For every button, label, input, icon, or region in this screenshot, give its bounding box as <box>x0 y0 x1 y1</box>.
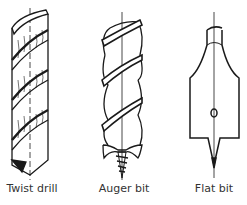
diagram-canvas <box>0 0 247 205</box>
twist-drill-label: Twist drill <box>2 182 62 195</box>
auger-bit-label: Auger bit <box>94 182 154 195</box>
auger-bit-icon <box>102 12 142 180</box>
twist-drill-icon <box>12 8 48 180</box>
flat-bit-label: Flat bit <box>184 182 244 195</box>
flat-bit-icon <box>190 12 239 178</box>
